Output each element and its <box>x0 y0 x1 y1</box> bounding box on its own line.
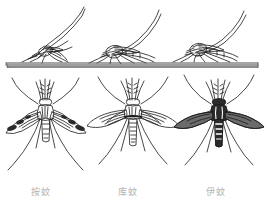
label-culex: 库蚊 <box>101 185 155 198</box>
figure-artwork <box>0 0 268 204</box>
mosquito-comparison-figure: 按蚊 库蚊 伊蚊 <box>0 0 268 204</box>
figure-background <box>0 0 268 204</box>
label-anopheles: 按蚊 <box>14 185 68 198</box>
label-aedes: 伊蚊 <box>189 185 243 198</box>
